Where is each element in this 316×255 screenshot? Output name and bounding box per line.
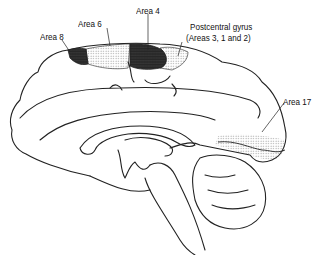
label-area-17: Area 17: [283, 96, 311, 107]
label-postcentral-areas: (Areas 3, 1 and 2): [186, 32, 251, 43]
label-area-8: Area 8: [40, 31, 64, 42]
area-8-region: [68, 48, 88, 64]
corpus-callosum: [80, 126, 195, 154]
brain-diagram: Area 4 Area 6 Area 8 Postcentral gyrus (…: [0, 0, 316, 255]
label-area-4: Area 4: [136, 5, 160, 16]
label-postcentral-gyrus: Postcentral gyrus: [190, 21, 252, 32]
brainstem: [150, 163, 205, 250]
label-area-6: Area 6: [78, 18, 102, 29]
area-6-region: [86, 44, 130, 69]
cerebellum: [193, 155, 266, 229]
